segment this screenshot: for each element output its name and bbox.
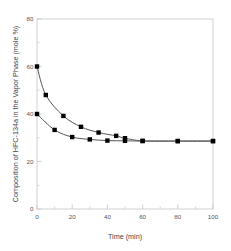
chart-figure: 020406080100020406080 Time (min) Composi… <box>0 0 231 251</box>
data-series-upper-curve <box>35 64 215 143</box>
data-point-marker <box>44 93 48 97</box>
chart-canvas: 020406080100020406080 Time (min) Composi… <box>0 0 231 251</box>
x-tick-label: 100 <box>208 213 219 220</box>
data-point-marker <box>70 135 74 139</box>
data-point-marker <box>52 128 56 132</box>
data-point-marker <box>211 139 215 143</box>
y-tick-label: 20 <box>27 158 34 165</box>
data-series-group <box>35 64 215 143</box>
data-point-marker <box>88 137 92 141</box>
data-point-marker <box>140 139 144 143</box>
x-tick-label: 80 <box>174 213 181 220</box>
y-tick-label: 60 <box>27 63 34 70</box>
axis-tick-labels: 020406080100020406080 <box>27 15 219 220</box>
data-point-marker <box>61 114 65 118</box>
y-axis-title: Composition of HFC-134a in the Vapor Pha… <box>11 26 20 202</box>
data-point-marker <box>176 139 180 143</box>
x-tick-label: 0 <box>35 213 39 220</box>
data-point-marker <box>96 130 100 134</box>
y-tick-label: 80 <box>27 15 34 22</box>
data-point-marker <box>35 112 39 116</box>
x-axis-title: Time (min) <box>108 232 142 241</box>
data-point-marker <box>35 64 39 68</box>
data-point-marker <box>105 138 109 142</box>
data-point-marker <box>114 134 118 138</box>
x-tick-label: 40 <box>104 213 111 220</box>
y-tick-label: 0 <box>30 205 34 212</box>
data-point-marker <box>79 125 83 129</box>
x-tick-label: 20 <box>69 213 76 220</box>
data-point-marker <box>123 139 127 143</box>
x-tick-label: 60 <box>139 213 146 220</box>
y-tick-label: 40 <box>27 110 34 117</box>
